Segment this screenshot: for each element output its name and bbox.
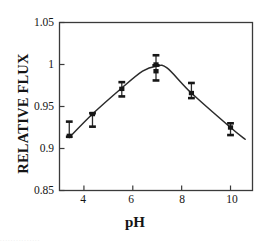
figure: RELATIVE FLUX pH 1.05 1 0.95 0.9 0.85 4 … [0, 0, 270, 243]
axes-frame [60, 23, 253, 191]
clipped-caption-text: ............... [0, 236, 270, 242]
trend-curve [69, 65, 245, 139]
plot-area [0, 0, 270, 243]
tick-marks [60, 23, 231, 191]
